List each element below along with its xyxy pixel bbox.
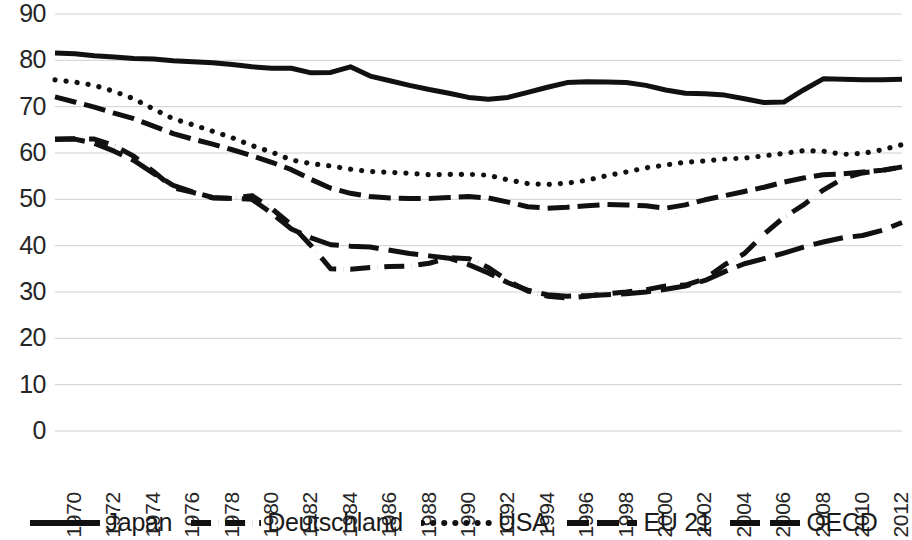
legend-item-usa[interactable]: USA xyxy=(421,510,549,535)
y-tick-label: 30 xyxy=(19,279,46,304)
y-tick-label: 20 xyxy=(19,325,46,350)
legend-label: EU 21 xyxy=(643,510,711,535)
y-tick-label: 90 xyxy=(19,1,46,26)
y-tick-label: 10 xyxy=(19,372,46,397)
series-line-usa xyxy=(55,80,902,185)
chart-legend: JapanDeutschlandUSAEU 21OECD xyxy=(0,505,906,540)
y-tick-label: 50 xyxy=(19,186,46,211)
legend-label: Deutschland xyxy=(267,510,403,535)
legend-swatch-dash-medium xyxy=(566,515,638,531)
legend-label: OECD xyxy=(806,510,877,535)
x-axis: 1970197219741976197819801982198419861988… xyxy=(0,434,906,500)
legend-label: USA xyxy=(498,510,549,535)
y-axis: 9080706050403020100 xyxy=(0,0,46,440)
legend-label: Japan xyxy=(106,510,173,535)
legend-swatch-dashdot xyxy=(190,515,262,531)
y-tick-label: 40 xyxy=(19,233,46,258)
series-line-deutschland xyxy=(55,139,902,298)
legend-item-deutschland[interactable]: Deutschland xyxy=(190,510,403,535)
legend-swatch-dash-long xyxy=(729,515,801,531)
legend-swatch-solid xyxy=(29,515,101,531)
legend-item-oecd[interactable]: OECD xyxy=(729,510,877,535)
legend-item-japan[interactable]: Japan xyxy=(29,510,173,535)
legend-swatch-dotted xyxy=(421,515,493,531)
y-tick-label: 60 xyxy=(19,140,46,165)
series-line-oecd xyxy=(55,139,902,296)
y-tick-label: 70 xyxy=(19,94,46,119)
legend-item-eu-21[interactable]: EU 21 xyxy=(566,510,711,535)
y-tick-label: 80 xyxy=(19,47,46,72)
